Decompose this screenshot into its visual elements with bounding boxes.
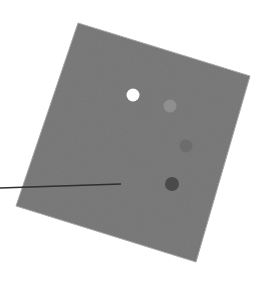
sample-dot-4 <box>165 177 179 191</box>
figure-canvas <box>0 0 275 284</box>
sample-dot-2 <box>164 100 177 113</box>
sample-dot-1 <box>127 89 140 102</box>
sample-dot-3 <box>180 140 193 153</box>
figure-root <box>0 0 275 284</box>
